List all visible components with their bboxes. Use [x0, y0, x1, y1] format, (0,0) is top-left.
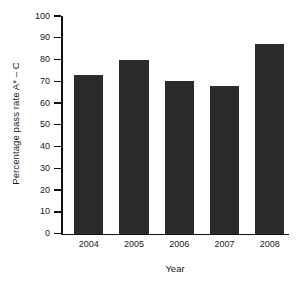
x-axis-tick-label: 2005 — [117, 239, 151, 249]
y-axis-tick — [54, 124, 61, 125]
y-axis-tick-label: 10 — [20, 207, 50, 216]
x-axis-title: Year — [61, 263, 289, 274]
y-axis-tick-label: 50 — [20, 120, 50, 129]
y-axis-tick-label: 20 — [20, 186, 50, 195]
y-axis-tick-label: 90 — [20, 33, 50, 42]
y-axis-tick — [54, 146, 61, 147]
x-axis-line — [61, 234, 289, 236]
y-axis-tick-label: 40 — [20, 142, 50, 151]
y-axis-tick — [54, 189, 61, 190]
y-axis-tick — [54, 59, 61, 60]
bar — [255, 44, 284, 233]
y-axis-tick-label: 30 — [20, 164, 50, 173]
y-axis-tick-label: 70 — [20, 77, 50, 86]
bar — [210, 86, 239, 234]
x-axis-tick-label: 2006 — [162, 239, 196, 249]
y-axis-tick-label: 60 — [20, 99, 50, 108]
x-axis-tick-label: 2004 — [72, 239, 106, 249]
y-axis-tick — [54, 102, 61, 103]
x-axis-tick-label: 2008 — [253, 239, 287, 249]
bar — [165, 81, 194, 233]
y-axis-tick-label: 80 — [20, 55, 50, 64]
y-axis-line — [61, 16, 63, 235]
y-axis-tick — [54, 211, 61, 212]
bar — [119, 60, 148, 234]
y-axis-tick — [54, 15, 61, 16]
y-axis-tick — [54, 168, 61, 169]
x-axis-tick-label: 2007 — [208, 239, 242, 249]
bar — [74, 75, 103, 234]
bar-chart: Percentage pass rate A* – C 010203040506… — [0, 0, 298, 285]
y-axis-tick-label: 0 — [20, 229, 50, 238]
y-axis-tick — [54, 81, 61, 82]
y-axis-tick-label: 100 — [20, 12, 50, 21]
y-axis-tick — [54, 233, 61, 234]
y-axis-tick — [54, 37, 61, 38]
y-axis-title: Percentage pass rate A* – C — [10, 19, 21, 229]
